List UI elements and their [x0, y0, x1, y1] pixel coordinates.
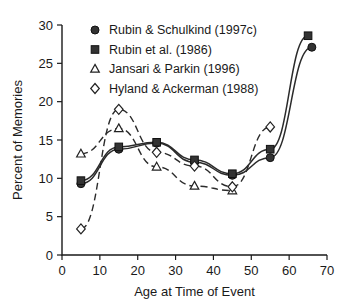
data-point — [308, 43, 316, 51]
legend-marker-0 — [91, 26, 99, 34]
legend-label-2: Jansari & Parkin (1996) — [109, 62, 240, 76]
data-point — [115, 143, 123, 151]
data-point — [153, 139, 161, 147]
data-point — [114, 124, 123, 132]
legend-label-3: Hyland & Ackerman (1988) — [109, 82, 258, 96]
data-point — [304, 32, 312, 40]
legend-label-0: Rubin & Schulkind (1997c) — [109, 23, 257, 37]
y-tick-label: 5 — [46, 209, 53, 224]
x-tick-label: 40 — [206, 263, 220, 278]
data-point — [114, 104, 123, 114]
x-tick-label: 70 — [320, 263, 334, 278]
x-tick-label: 20 — [130, 263, 144, 278]
y-axis-title: Percent of Memories — [10, 80, 25, 200]
legend-label-1: Rubin et al. (1986) — [109, 43, 212, 57]
x-tick-label: 50 — [244, 263, 258, 278]
y-tick-label: 30 — [39, 18, 53, 33]
legend-marker-3 — [91, 84, 100, 94]
y-tick-label: 10 — [39, 171, 53, 186]
y-tick-label: 15 — [39, 133, 53, 148]
memory-distribution-chart: 051015202530010203040506070Age at Time o… — [0, 0, 346, 308]
x-tick-label: 60 — [282, 263, 296, 278]
data-point — [77, 177, 85, 185]
chart-canvas: 051015202530010203040506070Age at Time o… — [0, 0, 346, 308]
data-point — [266, 154, 274, 162]
x-axis-title: Age at Time of Event — [134, 284, 255, 299]
legend-marker-1 — [91, 46, 99, 54]
y-tick-label: 25 — [39, 56, 53, 71]
series-3 — [81, 109, 270, 229]
data-point — [266, 145, 274, 153]
x-tick-label: 30 — [168, 263, 182, 278]
data-point — [266, 122, 275, 132]
x-tick-label: 10 — [93, 263, 107, 278]
y-tick-label: 20 — [39, 94, 53, 109]
data-point — [229, 170, 237, 178]
series-line — [81, 109, 270, 229]
y-tick-label: 0 — [46, 248, 53, 263]
data-point — [152, 147, 161, 157]
axis-spines — [62, 25, 327, 255]
legend-marker-2 — [91, 64, 100, 72]
x-tick-label: 0 — [58, 263, 65, 278]
data-point — [77, 224, 86, 234]
